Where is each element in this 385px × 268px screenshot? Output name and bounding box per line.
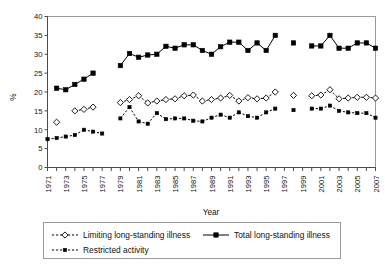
data-point xyxy=(245,95,251,101)
data-point xyxy=(200,48,204,52)
x-tick-label: 1985 xyxy=(171,176,180,193)
data-point xyxy=(354,94,360,100)
data-point xyxy=(119,117,122,120)
x-tick-label: 1973 xyxy=(62,176,71,193)
data-point xyxy=(210,116,213,119)
legend-marker-1 xyxy=(214,233,218,237)
data-point xyxy=(54,119,60,125)
data-point xyxy=(136,93,142,99)
data-point xyxy=(228,116,231,119)
data-point xyxy=(263,95,269,101)
data-point xyxy=(192,119,195,122)
y-tick-label: 5 xyxy=(38,144,42,153)
data-point xyxy=(127,51,131,55)
line-chart: 0510152025303540 19711973197519771979198… xyxy=(0,0,385,268)
data-point xyxy=(255,116,258,119)
data-point xyxy=(46,138,49,141)
data-point xyxy=(183,117,186,120)
data-point xyxy=(191,43,195,47)
series-segment xyxy=(130,107,139,121)
data-point xyxy=(209,52,213,56)
data-point xyxy=(101,132,104,135)
data-point xyxy=(91,130,94,133)
data-point xyxy=(136,55,140,59)
data-point xyxy=(319,107,322,110)
legend-label-1: Total long-standing illness xyxy=(234,230,330,240)
y-tick-label: 30 xyxy=(34,50,42,59)
x-tick-label: 1977 xyxy=(98,176,107,193)
data-point xyxy=(190,92,196,98)
data-point xyxy=(64,135,67,138)
data-point xyxy=(328,104,331,107)
y-tick-label: 40 xyxy=(34,12,42,21)
x-tick-label: 1971 xyxy=(44,176,53,193)
data-point xyxy=(228,40,232,44)
data-point xyxy=(219,113,222,116)
x-tick-label: 1991 xyxy=(226,176,235,193)
data-point xyxy=(82,77,86,81)
data-point xyxy=(164,44,168,48)
data-point xyxy=(274,107,277,110)
data-point xyxy=(310,107,313,110)
data-point xyxy=(337,109,340,112)
y-axis-ticks: 0510152025303540 xyxy=(34,12,375,172)
data-point xyxy=(246,48,250,52)
data-point xyxy=(356,112,359,115)
data-point xyxy=(163,96,169,102)
data-point xyxy=(290,92,296,98)
data-point xyxy=(73,82,77,86)
data-point xyxy=(347,111,350,114)
x-tick-label: 1999 xyxy=(299,176,308,193)
data-point xyxy=(199,98,205,104)
data-point xyxy=(54,86,58,90)
data-point xyxy=(72,108,78,114)
data-point xyxy=(372,95,378,101)
data-point xyxy=(246,115,249,118)
y-tick-label: 0 xyxy=(38,163,42,172)
data-point xyxy=(374,116,377,119)
data-point xyxy=(309,93,315,99)
x-tick-label: 2003 xyxy=(335,176,344,193)
chart-container: 0510152025303540 19711973197519771979198… xyxy=(0,0,385,268)
data-point xyxy=(182,43,186,47)
data-point xyxy=(173,117,176,120)
series-1 xyxy=(54,33,377,92)
data-point xyxy=(172,96,178,102)
data-point xyxy=(82,128,85,131)
data-point xyxy=(363,94,369,100)
data-point xyxy=(327,87,333,93)
data-point xyxy=(292,109,295,112)
data-point xyxy=(208,96,214,102)
x-tick-label: 1979 xyxy=(116,176,125,193)
data-point xyxy=(318,92,324,98)
data-point xyxy=(218,45,222,49)
data-point xyxy=(201,120,204,123)
data-point xyxy=(90,104,96,110)
legend-label-2: Restricted activity xyxy=(83,245,149,255)
data-point xyxy=(319,44,323,48)
data-point xyxy=(91,71,95,75)
data-point xyxy=(265,111,268,114)
y-tick-label: 35 xyxy=(34,31,42,40)
data-point xyxy=(218,95,224,101)
data-point xyxy=(345,95,351,101)
x-tick-label: 1989 xyxy=(208,176,217,193)
x-tick-label: 1981 xyxy=(135,176,144,193)
x-tick-label: 1975 xyxy=(80,176,89,193)
data-point xyxy=(154,98,160,104)
data-point xyxy=(264,48,268,52)
legend: Limiting long-standing illnessTotal long… xyxy=(44,223,341,259)
data-point xyxy=(181,93,187,99)
data-point xyxy=(173,46,177,50)
data-point xyxy=(146,122,149,125)
series-layer xyxy=(46,33,379,141)
y-axis-title: % xyxy=(9,93,18,100)
y-tick-label: 10 xyxy=(34,126,42,135)
data-point xyxy=(64,88,68,92)
y-tick-label: 20 xyxy=(34,88,42,97)
data-point xyxy=(291,41,295,45)
y-tick-label: 15 xyxy=(34,107,42,116)
data-point xyxy=(155,52,159,56)
data-point xyxy=(255,41,259,45)
x-tick-label: 1995 xyxy=(262,176,271,193)
